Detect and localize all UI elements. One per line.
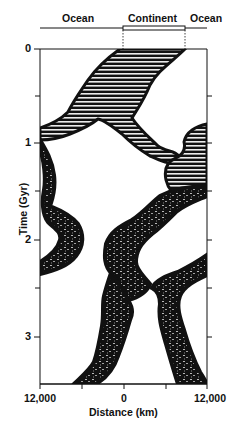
y-tick-label-0: 0 [17,42,31,54]
y-tick-label-1: 1 [17,136,31,148]
bands [40,49,207,384]
plot-svg [0,0,233,430]
region-bar [40,26,207,49]
x-tick-label-center: 0 [104,392,144,404]
x-tick-label-left: 12,000 [20,392,60,404]
y-axis-label: Time (Gyr) [17,174,29,244]
y-tick-label-3: 3 [17,330,31,342]
band-3 [40,140,82,274]
band-6 [74,276,132,384]
band-5 [152,255,207,384]
x-axis-label: Distance (km) [89,406,158,418]
x-axis-ticks [40,384,207,389]
band-1 [40,49,185,163]
x-tick-label-right: 12,000 [190,392,230,404]
continent-box [123,26,185,30]
